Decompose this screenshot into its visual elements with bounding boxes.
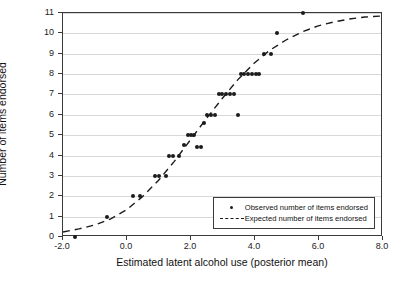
x-tick-label: 2.0 — [184, 241, 197, 251]
y-axis-label: Number of items endorsed — [0, 62, 8, 186]
y-tick-label: 11 — [0, 7, 54, 17]
data-point — [164, 174, 168, 178]
data-point — [257, 72, 261, 76]
chart-legend: Observed number of items endorsed Expect… — [213, 197, 375, 229]
y-tick-label: 2 — [0, 190, 54, 200]
y-tick-label: 10 — [0, 27, 54, 37]
x-tick-mark — [382, 236, 383, 240]
data-point — [199, 145, 203, 149]
y-tick-label: 9 — [0, 48, 54, 58]
data-point — [262, 52, 266, 56]
data-point — [157, 174, 161, 178]
data-point — [167, 154, 171, 158]
y-tick-label: 3 — [0, 170, 54, 180]
x-tick-label: -2.0 — [54, 241, 70, 251]
y-tick-label: 5 — [0, 129, 54, 139]
data-point — [131, 194, 135, 198]
chart-container: Number of items endorsed Estimated laten… — [0, 0, 408, 289]
legend-label-observed: Observed number of items endorsed — [245, 202, 368, 213]
y-tick-label: 0 — [0, 231, 54, 241]
x-tick-mark — [318, 236, 319, 240]
y-tick-label: 1 — [0, 211, 54, 221]
y-tick-label: 6 — [0, 109, 54, 119]
x-tick-mark — [62, 236, 63, 240]
data-point — [202, 121, 206, 125]
legend-item-observed: Observed number of items endorsed — [219, 202, 368, 213]
y-tick-label: 7 — [0, 88, 54, 98]
data-point — [182, 143, 186, 147]
data-point — [275, 31, 279, 35]
data-point — [105, 215, 109, 219]
data-point — [232, 92, 236, 96]
x-tick-label: 8.0 — [376, 241, 389, 251]
data-point — [138, 194, 142, 198]
data-point — [153, 174, 157, 178]
y-tick-label: 4 — [0, 150, 54, 160]
data-point — [213, 113, 217, 117]
data-point — [73, 235, 77, 239]
y-tick-label: 8 — [0, 68, 54, 78]
x-tick-mark — [126, 236, 127, 240]
dashed-line-icon — [219, 218, 245, 219]
x-tick-mark — [190, 236, 191, 240]
x-tick-label: 0.0 — [120, 241, 133, 251]
data-point — [177, 154, 181, 158]
data-point — [192, 133, 196, 137]
data-point — [171, 154, 175, 158]
x-tick-label: 4.0 — [248, 241, 261, 251]
legend-item-expected: Expected number of items endorsed — [219, 213, 368, 224]
plot-frame: Observed number of items endorsed Expect… — [62, 12, 382, 236]
legend-label-expected: Expected number of items endorsed — [245, 213, 367, 224]
data-point — [236, 113, 240, 117]
x-tick-label: 6.0 — [312, 241, 325, 251]
observed-dot-icon — [219, 206, 245, 209]
x-axis-label: Estimated latent alcohol use (posterior … — [62, 256, 382, 268]
data-point — [269, 52, 273, 56]
x-tick-mark — [254, 236, 255, 240]
data-point — [301, 11, 305, 15]
